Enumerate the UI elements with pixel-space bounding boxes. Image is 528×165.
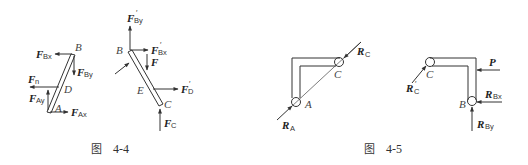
force-rbx-label: R Bx (484, 88, 502, 101)
force-ra-arrow (277, 106, 292, 120)
frame-cb (426, 58, 477, 106)
svg-text:R: R (484, 88, 492, 100)
svg-text:n: n (35, 77, 39, 86)
force-rby-label: R By (476, 118, 494, 131)
svg-text:R: R (476, 118, 484, 130)
svg-text:By: By (485, 122, 494, 131)
point-a2-label: A (304, 98, 312, 110)
force-rc-prime-label: R C ′ (405, 79, 420, 96)
force-fn-label: F n (27, 73, 39, 86)
free-body-diagrams: B D A F Bx F By F n F Ay F Ax (0, 0, 528, 165)
point-c3-label: C (426, 68, 434, 80)
svg-text:C: C (365, 50, 371, 59)
force-f-label: F (150, 56, 159, 68)
svg-text:Bx: Bx (158, 48, 167, 57)
svg-text:Bx: Bx (493, 92, 502, 101)
point-c-label: C (164, 98, 172, 110)
svg-text:By: By (84, 70, 93, 79)
force-fay-label: F Ay (28, 92, 45, 105)
force-fbx-prime-label: F Bx ′ (150, 40, 167, 57)
point-b-label: B (75, 41, 82, 53)
svg-text:C: C (171, 121, 177, 130)
svg-text:Bx: Bx (43, 52, 52, 61)
svg-text:R: R (405, 82, 413, 94)
svg-text:图: 图 (91, 143, 102, 156)
svg-text:4-4: 4-4 (113, 142, 129, 156)
figure-4-4: B D A F Bx F By F n F Ay F Ax (27, 8, 194, 156)
point-b2-label: B (116, 44, 123, 56)
force-fax-label: F Ax (70, 106, 87, 119)
figure-4-5-caption: 图 4-5 (364, 142, 402, 156)
force-diagonal-arrow (115, 63, 129, 74)
svg-text:R: R (356, 45, 364, 57)
point-c2-label: C (334, 68, 342, 80)
pin-c3 (426, 58, 435, 67)
svg-text:A: A (290, 124, 295, 133)
force-rc-label: R C (356, 45, 371, 59)
point-d-label: D (63, 83, 72, 95)
force-fby-prime-label: F By ′ (126, 8, 143, 25)
force-p-label: P (489, 56, 496, 68)
svg-text:4-5: 4-5 (386, 142, 402, 156)
svg-text:R: R (281, 119, 289, 131)
force-ra-label: R A (281, 119, 295, 133)
svg-text:C: C (414, 87, 420, 96)
svg-text:Ay: Ay (36, 96, 45, 105)
svg-text:图: 图 (364, 143, 375, 156)
svg-text:P: P (489, 56, 496, 68)
point-e-label: E (136, 84, 144, 96)
svg-text:D: D (188, 87, 194, 96)
figure-4-5: A C R C R A C B P R C (277, 42, 502, 156)
svg-text:F: F (150, 56, 159, 68)
pin-b (468, 97, 477, 106)
figure-4-4-caption: 图 4-4 (91, 142, 129, 156)
force-fbx-label: F Bx (35, 48, 52, 61)
force-fd-prime-label: F D ′ (180, 79, 194, 96)
force-fc-label: F C (163, 117, 177, 130)
svg-text:Ax: Ax (78, 110, 87, 119)
force-fby-label: F By (76, 66, 93, 79)
point-b3-label: B (459, 98, 466, 110)
svg-text:By: By (134, 16, 143, 25)
